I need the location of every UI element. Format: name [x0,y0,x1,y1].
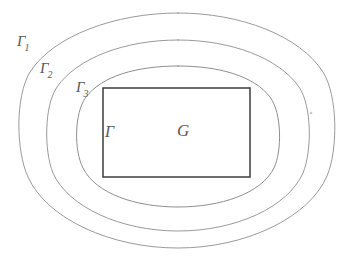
label-gamma-1-subscript: 1 [25,42,30,53]
label-gamma: Γ [105,124,114,140]
label-region-g-glyph: G [177,121,189,140]
label-gamma-3-subscript: 3 [84,88,89,99]
label-gamma-glyph: Γ [105,123,114,140]
label-gamma-2: Γ2 [40,60,54,76]
label-gamma-1: Γ1 [17,33,31,49]
label-region-g: G [177,122,189,139]
label-gamma-2-subscript: 2 [48,69,53,80]
stray-pencil-mark [310,112,313,115]
figure-canvas: Γ1 Γ2 Γ3 Γ G [0,0,357,259]
label-gamma-3: Γ3 [76,79,90,95]
